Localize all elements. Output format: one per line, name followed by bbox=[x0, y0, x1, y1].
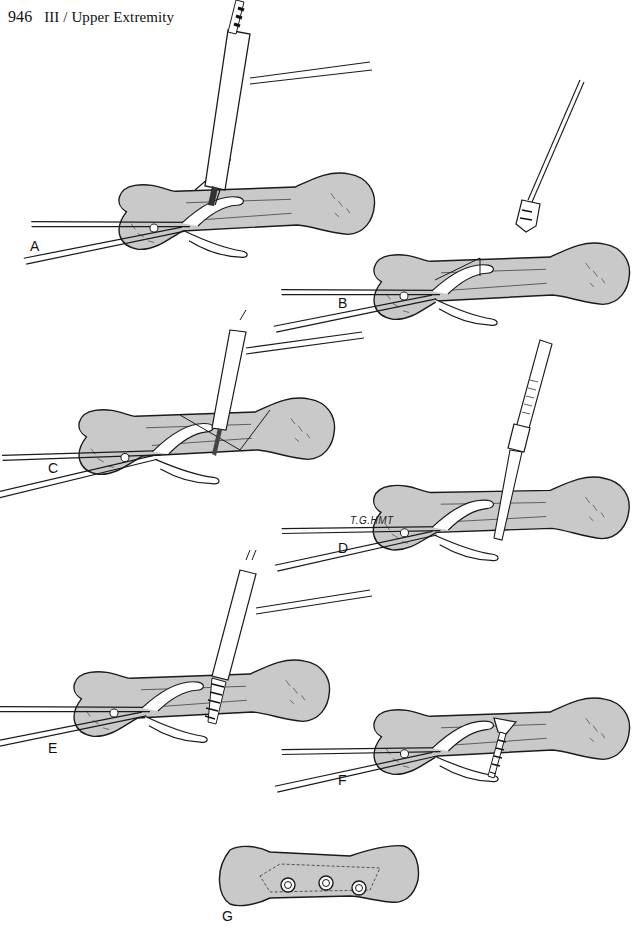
screw-head-icon bbox=[319, 876, 333, 890]
figure-panel-e: E bbox=[40, 560, 340, 770]
panel-label-a: A bbox=[30, 238, 39, 254]
screw-head-icon bbox=[281, 878, 295, 892]
panel-label-c: C bbox=[48, 460, 58, 476]
panel-label-f: F bbox=[338, 772, 347, 788]
figure-panel-a: A bbox=[0, 0, 320, 260]
figure-panel-d: T.G.HMT D bbox=[330, 340, 635, 570]
tap-illustration bbox=[40, 560, 340, 770]
drill-far-cortex-illustration bbox=[40, 320, 340, 480]
panel-label-e: E bbox=[48, 740, 57, 756]
screw-inserted-illustration bbox=[330, 690, 635, 790]
figure-panel-b: B bbox=[330, 80, 635, 320]
screw-head-icon bbox=[352, 881, 366, 895]
illustrator-signature: T.G.HMT bbox=[350, 515, 394, 526]
panel-label-b: B bbox=[338, 295, 347, 311]
figure-panel-f: F bbox=[330, 690, 635, 790]
depth-gauge-illustration bbox=[330, 340, 635, 570]
countersink-icon bbox=[516, 80, 584, 232]
panel-label-d: D bbox=[338, 540, 348, 556]
panel-label-g: G bbox=[222, 908, 233, 924]
countersink-illustration bbox=[330, 80, 635, 320]
final-fixation-illustration bbox=[200, 840, 440, 931]
figure-panel-g: G bbox=[200, 840, 440, 931]
figure-panel-c: C bbox=[40, 320, 340, 480]
drill-guide-illustration bbox=[0, 0, 320, 260]
